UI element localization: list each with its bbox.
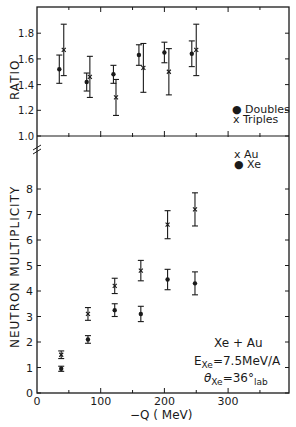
annotation-energy: EXe=7.5MeV/A (194, 354, 280, 370)
y-tick-label: 8 (26, 183, 33, 196)
data-point-dot (111, 72, 115, 76)
x-axis-label: −Q ( MeV) (130, 408, 192, 422)
y-tick-label: 2 (26, 336, 33, 349)
x-tick-label: 300 (218, 395, 239, 408)
data-point-dot (190, 52, 194, 56)
y-tick-label: 7 (26, 209, 33, 222)
y-tick-label: 5 (26, 260, 33, 273)
y-tick-label: 1.8 (18, 28, 34, 39)
x-tick-label: 100 (90, 395, 111, 408)
y-tick-label: 6 (26, 234, 33, 247)
data-point-dot (137, 53, 141, 57)
data-point-dot (139, 312, 143, 316)
data-point-dot (84, 80, 88, 84)
data-point-dot (165, 277, 169, 281)
y-tick-label: 4 (26, 285, 33, 298)
x-tick-label: 0 (34, 395, 41, 408)
y-tick-label: 1 (26, 362, 33, 375)
data-point-dot (59, 367, 63, 371)
data-point-dot (86, 337, 90, 341)
data-point-dot (113, 308, 117, 312)
y-tick-label: 0 (26, 387, 33, 400)
y-tick-label: 1.2 (18, 105, 34, 116)
data-point-dot (193, 281, 197, 285)
legend-xe: ● Xe (234, 158, 261, 171)
y-tick-label: 3 (26, 311, 33, 324)
annotation-angle: θXe=36°lab (204, 371, 268, 387)
annotation-reaction: Xe + Au (214, 336, 263, 350)
data-point-dot (57, 67, 61, 71)
legend-triples: x Triples (233, 113, 278, 126)
y-tick-label: 1.0 (18, 131, 34, 142)
x-tick-label: 200 (154, 395, 175, 408)
data-point-dot (162, 50, 166, 54)
top-y-axis-label: RATIO (8, 60, 22, 100)
bottom-y-axis-label: NEUTRON MULTIPLICITY (8, 186, 22, 348)
